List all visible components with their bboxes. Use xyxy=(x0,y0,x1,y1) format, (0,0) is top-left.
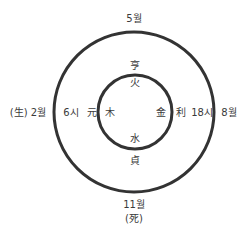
month-label-november: 11월 xyxy=(123,199,145,211)
virtue-label-heng: 亨 xyxy=(130,60,140,72)
element-label-water: 水 xyxy=(130,133,140,145)
virtue-label-li: 利 xyxy=(176,107,186,119)
element-label-metal: 金 xyxy=(156,107,166,119)
element-label-wood: 木 xyxy=(105,107,115,119)
time-label-18h: 18시 xyxy=(191,107,213,119)
month-label-may: 5월 xyxy=(126,13,141,25)
month-label-february-birth: (生) 2월 xyxy=(10,107,46,119)
death-note-label: (死) xyxy=(125,213,143,225)
element-label-fire: 火 xyxy=(130,77,140,89)
virtue-label-won: 元 xyxy=(87,107,97,119)
virtue-label-jeong: 貞 xyxy=(130,155,140,167)
time-label-6h: 6시 xyxy=(63,107,78,119)
month-label-august: 8월 xyxy=(221,107,236,119)
